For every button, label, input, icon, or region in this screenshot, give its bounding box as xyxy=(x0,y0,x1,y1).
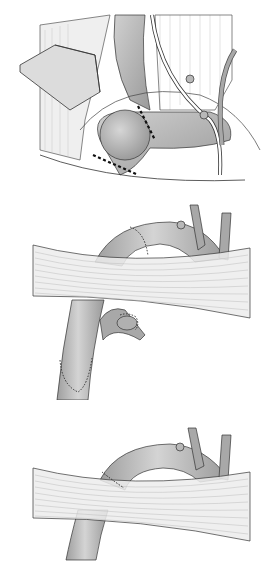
panel-bottom-repair xyxy=(0,400,270,567)
ligature-clip xyxy=(176,443,184,451)
ligature-clip-2 xyxy=(200,111,208,119)
branch-vessel-2 xyxy=(219,435,231,480)
aneurysm xyxy=(100,110,150,160)
ligature-clip xyxy=(177,221,185,229)
descending-vessel xyxy=(57,300,104,400)
illustration-middle xyxy=(0,200,270,400)
illustration-top xyxy=(0,0,270,200)
illustration-bottom xyxy=(0,400,270,567)
sutured-branch-stump xyxy=(117,316,137,330)
panel-middle-repair xyxy=(0,200,270,400)
panel-top-resection xyxy=(0,0,270,200)
ligature-clip-1 xyxy=(186,75,194,83)
